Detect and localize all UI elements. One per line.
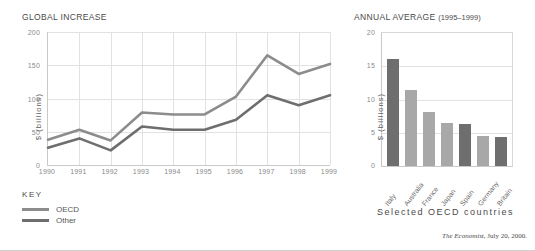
- line-y-tick: 50: [32, 128, 40, 135]
- line-x-tick: 1992: [101, 168, 117, 175]
- line-y-tick: 200: [28, 29, 40, 36]
- line-x-tick: 1998: [289, 168, 305, 175]
- bar-category-label: Britain: [495, 187, 513, 207]
- bar-chart-title-period: (1995–1999): [438, 13, 481, 22]
- bar-italy: [387, 59, 399, 166]
- line-y-axis-labels: 050100150200: [0, 32, 44, 165]
- bar-france: [423, 112, 435, 166]
- bar-australia: [405, 90, 417, 166]
- bar-y-tick: 15: [367, 62, 375, 69]
- economist-figure: GLOBAL INCREASE 050100150200 19901991199…: [0, 0, 535, 251]
- bar-britain: [495, 137, 507, 166]
- bar-y-tick: 5: [371, 128, 375, 135]
- line-x-axis-labels: 1990199119921993199419951996199719981999: [47, 168, 329, 182]
- bar-category-label: Spain: [458, 189, 475, 207]
- line-x-tick: 1994: [164, 168, 180, 175]
- bar-plot-area: [381, 32, 513, 167]
- line-plot-area: [47, 32, 330, 166]
- line-x-tick: 1999: [321, 168, 337, 175]
- bar-x-axis-title: Selected OECD countries: [358, 207, 533, 217]
- source-credit: The Economist, July 20, 2000.: [442, 232, 527, 240]
- line-x-tick: 1995: [195, 168, 211, 175]
- line-series-other: [48, 95, 330, 150]
- bar-y-tick: 10: [367, 95, 375, 102]
- legend-label: OECD: [56, 205, 79, 214]
- legend-rows: OECDOther: [22, 204, 79, 226]
- line-x-tick: 1996: [227, 168, 243, 175]
- line-x-tick: 1991: [70, 168, 86, 175]
- bar-series: [382, 33, 512, 166]
- line-x-tick: 1997: [258, 168, 274, 175]
- line-y-tick: 150: [28, 62, 40, 69]
- line-series-svg: [48, 32, 330, 165]
- legend-item-other: Other: [22, 215, 79, 226]
- legend-heading: KEY: [22, 190, 79, 199]
- bar-category-label: Japan: [439, 188, 456, 207]
- line-y-tick: 100: [28, 95, 40, 102]
- bar-japan: [441, 123, 453, 166]
- legend-swatch: [22, 208, 49, 211]
- bar-y-tick: 20: [367, 29, 375, 36]
- line-chart-title: GLOBAL INCREASE: [22, 12, 107, 22]
- annual-average-chart: ANNUAL AVERAGE (1995–1999) 05101520 Ital…: [352, 0, 535, 251]
- source-date: July 20, 2000.: [486, 232, 527, 240]
- legend-label: Other: [56, 216, 76, 225]
- bar-spain: [459, 124, 471, 166]
- legend-item-oecd: OECD: [22, 204, 79, 215]
- line-x-tick: 1993: [133, 168, 149, 175]
- source-publication: The Economist,: [442, 232, 486, 240]
- bar-y-axis-labels: 05101520: [352, 32, 378, 165]
- legend-key: KEY OECDOther: [22, 190, 79, 226]
- bar-category-label: France: [421, 186, 440, 207]
- bar-germany: [477, 136, 489, 166]
- bar-y-tick: 0: [371, 162, 375, 169]
- bar-category-label: Italy: [384, 193, 397, 207]
- bar-x-axis-labels: ItalyAustraliaFranceJapanSpainGermanyBri…: [381, 167, 511, 207]
- bar-chart-title-main: ANNUAL AVERAGE: [354, 12, 435, 22]
- line-series-oecd: [48, 55, 330, 140]
- global-increase-chart: GLOBAL INCREASE 050100150200 19901991199…: [0, 0, 350, 251]
- line-x-tick: 1990: [39, 168, 55, 175]
- bar-chart-title: ANNUAL AVERAGE (1995–1999): [354, 12, 481, 22]
- legend-swatch: [22, 219, 49, 222]
- gridline-1999: [330, 32, 331, 165]
